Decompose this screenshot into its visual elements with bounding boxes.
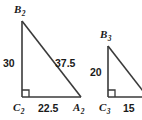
side-length-triangle-2-hypotenuse: 37.5 xyxy=(55,58,75,69)
triangle-3-hypotenuse xyxy=(108,46,142,100)
side-length-triangle-3-base: 15 xyxy=(123,103,135,114)
triangle-2-right-angle-marker xyxy=(22,90,29,97)
similar-triangles-figure: B2 C2 A2 30 22.5 37.5 B3 C3 20 15 xyxy=(0,0,142,120)
triangle-3-shape xyxy=(108,46,142,100)
vertex-label-c3: C3 xyxy=(99,102,110,113)
side-length-triangle-3-leg: 20 xyxy=(90,67,102,78)
vertex-label-a2: A2 xyxy=(73,102,84,113)
triangle-3-right-angle-marker xyxy=(108,90,115,97)
vertex-label-b2: B2 xyxy=(14,4,25,15)
vertex-label-c2: C2 xyxy=(13,102,24,113)
side-length-triangle-2-leg: 30 xyxy=(3,58,15,69)
vertex-label-b3: B3 xyxy=(100,29,111,40)
side-length-triangle-2-base: 22.5 xyxy=(38,103,58,114)
